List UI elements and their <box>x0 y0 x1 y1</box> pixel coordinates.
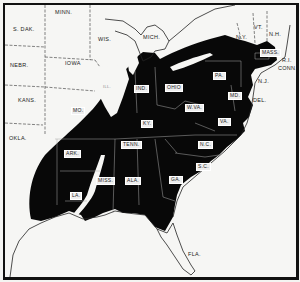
label-md: MD. <box>228 92 242 100</box>
map-frame: S. DAK. MINN. WIS. MICH. NEBR. IOWA ILL.… <box>3 3 299 280</box>
label-ala: ALA. <box>125 177 141 185</box>
label-ny: N.Y. <box>236 35 247 41</box>
label-okla: OKLA. <box>9 136 27 142</box>
label-conn: CONN. <box>278 66 297 72</box>
label-minn: MINN. <box>55 10 72 16</box>
label-la: LA. <box>70 192 82 200</box>
label-tenn: TENN. <box>121 141 142 149</box>
label-nh: N.H. <box>269 32 281 38</box>
label-ky: KY. <box>141 120 153 128</box>
label-mich: MICH. <box>143 35 160 41</box>
label-nebr: NEBR. <box>10 63 28 69</box>
label-va: VA. <box>218 118 231 126</box>
label-sdak: S. DAK. <box>13 27 35 33</box>
label-wva: W.VA. <box>185 104 204 112</box>
label-ark: ARK. <box>64 150 81 158</box>
label-miss: MISS. <box>96 177 115 185</box>
label-ill: ILL. <box>103 85 111 89</box>
label-mass: MASS. <box>260 49 281 57</box>
map-svg <box>5 5 296 277</box>
label-wis: WIS. <box>98 37 111 43</box>
label-ohio: OHIO <box>165 84 183 92</box>
label-ind: IND. <box>134 85 149 93</box>
label-iowa: IOWA <box>65 61 81 67</box>
label-ri: R.I. <box>282 58 292 64</box>
label-pa: PA. <box>213 72 226 80</box>
label-del: DEL. <box>253 98 266 104</box>
label-nc: N.C. <box>198 141 213 149</box>
label-mo: MO. <box>71 107 85 115</box>
label-nj: N.J. <box>258 79 269 85</box>
label-ga: GA. <box>169 176 183 184</box>
label-fla: FLA. <box>188 252 201 258</box>
label-kans: KANS. <box>18 98 36 104</box>
label-sc: S.C. <box>196 163 211 171</box>
label-vt: VT. <box>254 25 263 31</box>
